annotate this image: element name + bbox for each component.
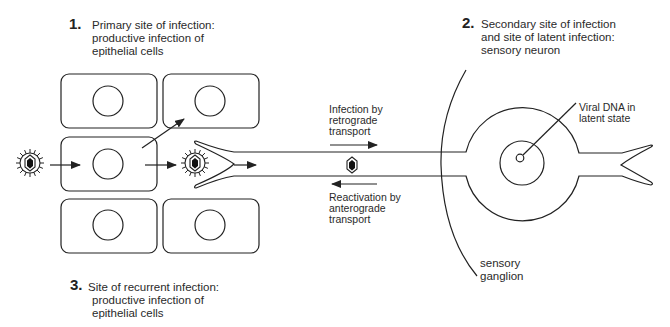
epithelial-cell-middle-infected (61, 137, 157, 191)
neuron-nucleus (500, 141, 544, 185)
nucleus (195, 86, 225, 116)
viral-dna-episome (516, 154, 524, 162)
retrograde-label-line3: transport (329, 126, 370, 137)
site1-line3: epithelial cells (92, 45, 164, 58)
anterograde-label-line3: transport (329, 214, 370, 225)
epithelial-cell-bottom-right (163, 199, 259, 253)
viral-capsid-icon (347, 157, 357, 173)
ganglion-label-line2: ganglion (480, 270, 523, 283)
epithelial-cell-top-left (61, 74, 157, 128)
cell-spread-arrow (142, 119, 184, 148)
nucleus (93, 210, 123, 240)
nucleus (93, 149, 123, 179)
sensory-ganglion-boundary (441, 70, 477, 276)
site2-line3: sensory neuron (481, 44, 560, 57)
site3-number: 3. (70, 276, 83, 293)
ganglion-label-line1: sensory (480, 257, 520, 270)
site2-line1: Secondary site of infection (481, 18, 616, 31)
enveloped-virus-icon (181, 149, 209, 177)
epithelial-cell-bottom-left (61, 199, 157, 253)
site3-line1: Site of recurrent infection: (88, 281, 219, 294)
nucleus (93, 86, 123, 116)
enveloped-virus-icon (16, 149, 44, 177)
site3-line3: epithelial cells (92, 307, 164, 320)
site3-line2: productive infection of (92, 294, 204, 307)
site2-number: 2. (462, 14, 475, 31)
site1-line1: Primary site of infection: (92, 19, 215, 32)
site1-number: 1. (69, 15, 82, 32)
nucleus (195, 210, 225, 240)
site2-line2: and site of latent infection: (481, 31, 615, 44)
sensory-neuron-outline (195, 108, 653, 221)
epithelial-cell-top-right (163, 74, 259, 128)
site1-line2: productive infection of (92, 32, 204, 45)
viral-dna-label-line2: latent state (579, 113, 630, 124)
